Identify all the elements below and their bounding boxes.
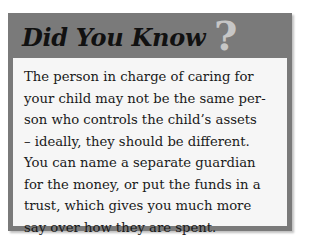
body-line: – ideally, they should be different. <box>24 131 286 153</box>
question-mark-icon: ? <box>214 13 237 59</box>
callout-title: Did You Know <box>22 24 205 52</box>
body-line: your child may not be the same per- <box>24 88 286 110</box>
did-you-know-callout: Did You Know ? The person in charge of c… <box>8 13 292 231</box>
callout-header: Did You Know ? <box>8 13 292 58</box>
body-line: You can name a separate guardian <box>24 152 286 174</box>
body-line: The person in charge of caring for <box>24 66 286 88</box>
callout-body-text: The person in charge of caring for your … <box>24 66 286 238</box>
callout-body-panel: The person in charge of caring for your … <box>13 58 287 226</box>
body-line: trust, which gives you much more <box>24 195 286 217</box>
body-line: son who controls the child’s assets <box>24 109 286 131</box>
body-line: for the money, or put the funds in a <box>24 174 286 196</box>
body-line: say over how they are spent. <box>24 217 286 239</box>
